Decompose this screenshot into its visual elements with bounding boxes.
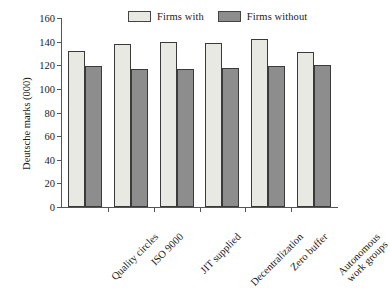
bar-firms-with [114,44,131,207]
y-axis-tick-label: 140 [39,36,55,47]
y-axis-tick-label: 60 [45,131,56,142]
y-axis-tick-label: 0 [50,202,55,213]
bar-group [297,52,331,207]
bar-group [160,42,194,207]
x-axis-tick [108,208,109,212]
bar-firms-with [160,42,177,207]
y-axis-tick-label: 40 [45,154,56,165]
x-axis-tick [291,208,292,212]
bar-firms-without [222,68,239,207]
y-axis-tick [57,207,62,208]
y-axis-tick-label: 20 [45,178,56,189]
y-axis-tick [57,18,62,19]
bar-firms-without [177,69,194,207]
y-axis-title: Deutsche marks (000) [21,49,32,199]
y-axis-tick [57,183,62,184]
x-axis-tick [200,208,201,212]
bar-firms-without [314,65,331,207]
y-axis-tick-label: 80 [45,107,56,118]
bar-group [114,44,148,207]
y-axis-tick-label: 160 [39,13,55,24]
bar-firms-with [205,43,222,207]
bar-firms-with [297,52,314,207]
y-axis-tick [57,42,62,43]
bar-group [251,39,285,207]
plot-area: 020406080100120140160 Quality circlesISO… [62,18,337,207]
x-axis-label: JIT supplied [198,231,243,276]
x-axis-label: Autonomouswork groups [336,231,390,285]
bar-firms-with [68,51,85,207]
y-axis-tick [57,136,62,137]
bar-group [205,43,239,207]
bar-firms-without [85,66,102,207]
bar-firms-with [251,39,268,207]
bar-firms-without [131,69,148,207]
y-axis-tick-label: 100 [39,83,55,94]
x-axis-tick [245,208,246,212]
bar-group [68,51,102,207]
y-axis-tick [57,160,62,161]
y-axis-tick [57,65,62,66]
bar-firms-without [268,66,285,207]
x-axis-tick [154,208,155,212]
y-axis-tick [57,113,62,114]
y-axis-tick [57,89,62,90]
y-axis-tick-label: 120 [39,60,55,71]
